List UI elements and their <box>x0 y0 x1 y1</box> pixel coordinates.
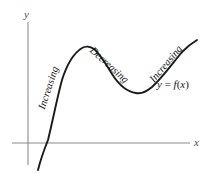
function-graph-figure: y x Increasing Decreasing Increasing y =… <box>0 0 212 174</box>
curve-equation-label: y = f(x) <box>157 79 189 90</box>
x-axis-label: x <box>194 137 199 148</box>
y-axis-label: y <box>24 9 29 20</box>
